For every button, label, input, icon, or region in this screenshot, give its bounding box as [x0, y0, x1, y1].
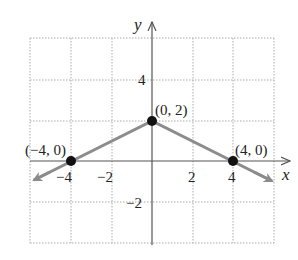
coordinate-graph: y x −4 −2 2 4 4 −2 (−4, 0) (0, 2) (4, 0) — [0, 0, 298, 260]
point-label-top: (0, 2) — [155, 102, 188, 119]
tick-x-2: 2 — [188, 169, 196, 185]
tick-y-m2: −2 — [126, 195, 142, 211]
x-axis-label: x — [281, 165, 290, 184]
tick-x-m2: −2 — [97, 169, 113, 185]
tick-x-m4: −4 — [56, 169, 72, 185]
y-axis-label: y — [132, 15, 142, 34]
tick-y-4: 4 — [138, 72, 146, 88]
tick-x-4: 4 — [228, 169, 236, 185]
point-left — [66, 156, 76, 166]
point-label-right: (4, 0) — [235, 142, 268, 159]
point-label-left: (−4, 0) — [25, 142, 66, 159]
